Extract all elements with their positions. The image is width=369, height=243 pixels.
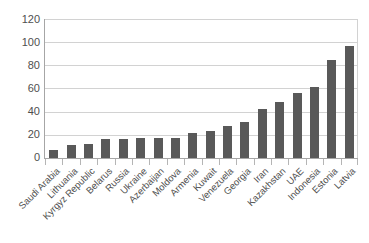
bar [119,139,128,158]
bar-slot [149,19,166,158]
bar-slot [132,19,149,158]
bar-slot [236,19,253,158]
x-axis-tick [167,159,184,165]
bar [258,109,267,158]
bar-slot [323,19,340,158]
bar-slot [306,19,323,158]
x-axis-category-labels: Saudi ArabiaLithuaniaKyrgyz RepublicBela… [45,166,358,243]
x-axis-tick [306,159,323,165]
bar [345,46,354,158]
y-tick-label: 100 [0,37,40,48]
bar-slot [115,19,132,158]
bar-slot [80,19,97,158]
bar-slot [202,19,219,158]
x-axis-tick-end [357,159,358,165]
y-tick-label: 20 [0,129,40,140]
x-axis-tick [149,159,166,165]
y-tick-label: 60 [0,83,40,94]
bar-slot [288,19,305,158]
bar [84,144,93,158]
bar [101,139,110,158]
x-axis-tick [254,159,271,165]
bar-slot [219,19,236,158]
bar [171,138,180,158]
bar-slot [271,19,288,158]
bar-chart: 120 100 80 60 40 20 0 Saudi ArabiaLithua… [0,0,369,243]
bar [275,102,284,158]
bar-slot [167,19,184,158]
bar [293,93,302,158]
bar [206,131,215,158]
bar-slot [97,19,114,158]
x-axis-ticks [45,159,358,165]
bar-series [45,19,358,158]
y-tick-label: 120 [0,14,40,25]
bar-slot [45,19,62,158]
bar [223,126,232,158]
y-tick-label: 0 [0,152,40,163]
bar [154,138,163,158]
x-axis-tick [184,159,201,165]
bar [136,138,145,158]
bar-slot [184,19,201,158]
bar [67,145,76,158]
y-tick-label: 40 [0,106,40,117]
bar-slot [62,19,79,158]
bar [240,122,249,158]
bar [310,87,319,158]
bar [188,133,197,158]
bar [327,60,336,158]
bar [49,150,58,158]
x-axis-tick [219,159,236,165]
y-tick-label: 80 [0,60,40,71]
bar-slot [254,19,271,158]
x-axis-tick [271,159,288,165]
x-axis-tick [115,159,132,165]
bar-slot [341,19,358,158]
x-axis-tick [341,159,358,165]
